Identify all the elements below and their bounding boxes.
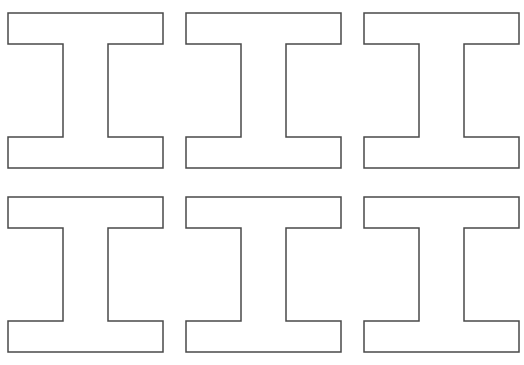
ibeam-shape-6: [364, 197, 519, 352]
ibeam-outline-svg: [8, 197, 163, 352]
ibeam-outline-path: [364, 197, 519, 352]
ibeam-shape-grid: [0, 0, 524, 365]
ibeam-outline-path: [8, 13, 163, 168]
ibeam-outline-svg: [186, 197, 341, 352]
ibeam-shape-3: [364, 13, 519, 168]
ibeam-outline-path: [186, 13, 341, 168]
ibeam-outline-path: [186, 197, 341, 352]
ibeam-shape-1: [8, 13, 163, 168]
ibeam-outline-svg: [364, 197, 519, 352]
ibeam-shape-2: [186, 13, 341, 168]
drawing-canvas: [0, 0, 524, 365]
ibeam-outline-svg: [8, 13, 163, 168]
ibeam-outline-svg: [364, 13, 519, 168]
ibeam-shape-4: [8, 197, 163, 352]
ibeam-shape-5: [186, 197, 341, 352]
ibeam-outline-path: [364, 13, 519, 168]
ibeam-outline-svg: [186, 13, 341, 168]
ibeam-outline-path: [8, 197, 163, 352]
